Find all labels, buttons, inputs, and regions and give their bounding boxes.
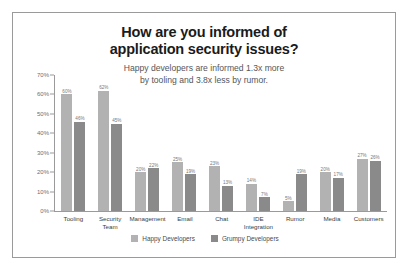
bar[interactable]: 20%: [135, 172, 146, 211]
y-axis-tick-mark: [50, 172, 54, 173]
bar-value-label: 5%: [285, 196, 292, 201]
bar[interactable]: 19%: [296, 174, 307, 211]
y-axis-tick-label: 50%: [37, 111, 49, 117]
bar-group: 62%45%: [92, 75, 129, 211]
chart-title-line-2: application security issues?: [79, 41, 329, 58]
bar-group: 14%7%: [239, 75, 276, 211]
x-axis-category-label: Management: [128, 215, 166, 231]
y-axis-tick-mark: [50, 152, 54, 153]
bar-group: 27%26%: [350, 75, 387, 211]
legend-label: Happy Developers: [142, 235, 195, 242]
bar-value-label: 25%: [173, 157, 182, 162]
bar-value-label: 62%: [99, 85, 108, 90]
x-axis-labels: ToolingSecurityTeamManagementEmailChatID…: [55, 215, 387, 231]
bar[interactable]: 14%: [246, 184, 257, 211]
bar[interactable]: 26%: [370, 161, 381, 212]
bar-value-label: 46%: [75, 116, 84, 121]
bar-group: 60%46%: [55, 75, 92, 211]
chart-subtitle-line-1: Happy developers are informed 1.3x more: [79, 63, 329, 74]
y-axis-tick-mark: [50, 191, 54, 192]
y-axis-tick-label: 0%: [40, 208, 49, 214]
legend-item[interactable]: Grumpy Developers: [211, 235, 279, 242]
y-axis-tick-mark: [50, 75, 54, 76]
bar[interactable]: 46%: [74, 122, 85, 211]
bar-group: 20%22%: [129, 75, 166, 211]
chart-card: How are you informed of application secu…: [12, 12, 396, 258]
bar-group: 23%13%: [203, 75, 240, 211]
bar-group: 20%17%: [313, 75, 350, 211]
bar[interactable]: 23%: [209, 166, 220, 211]
bar-value-label: 17%: [334, 172, 343, 177]
y-axis-tick-mark: [50, 133, 54, 134]
bar[interactable]: 62%: [98, 91, 109, 211]
bar-value-label: 27%: [357, 153, 366, 158]
bar-value-label: 20%: [321, 167, 330, 172]
bar-value-label: 7%: [261, 192, 268, 197]
x-axis-category-label: Customers: [350, 215, 387, 231]
bar-value-label: 19%: [297, 169, 306, 174]
bar[interactable]: 22%: [148, 168, 159, 211]
bar[interactable]: 13%: [222, 186, 233, 211]
bar-value-label: 14%: [247, 178, 256, 183]
bars-container: 60%46%62%45%20%22%25%19%23%13%14%7%5%19%…: [55, 75, 387, 211]
legend-swatch-icon: [211, 235, 218, 242]
bar[interactable]: 17%: [333, 178, 344, 211]
y-axis-tick-label: 60%: [37, 91, 49, 97]
x-axis-line: [54, 211, 387, 212]
page-title: How are you informed of application secu…: [79, 24, 329, 58]
bar-value-label: 13%: [223, 180, 232, 185]
bar[interactable]: 60%: [61, 94, 72, 211]
bar-value-label: 45%: [112, 118, 121, 123]
chart-title-line-1: How are you informed of: [79, 24, 329, 41]
x-axis-category-label: Email: [167, 215, 204, 231]
y-axis-tick-label: 40%: [37, 130, 49, 136]
bar[interactable]: 20%: [320, 172, 331, 211]
bar-group: 25%19%: [166, 75, 203, 211]
bar[interactable]: 27%: [357, 159, 368, 211]
x-axis-category-label: Tooling: [55, 215, 92, 231]
x-axis-category-label: SecurityTeam: [92, 215, 129, 231]
x-axis-category-label: IDEIntegration: [240, 215, 277, 231]
legend-item[interactable]: Happy Developers: [131, 235, 195, 242]
plot-area: 70%60%50%40%30%20%10%0% 60%46%62%45%20%2…: [13, 75, 397, 233]
legend-label: Grumpy Developers: [222, 235, 279, 242]
bar-value-label: 20%: [136, 167, 145, 172]
x-axis-category-label: Rumor: [277, 215, 314, 231]
bar-value-label: 60%: [62, 89, 71, 94]
y-axis-tick-label: 10%: [37, 189, 49, 195]
x-axis-category-label: Media: [314, 215, 351, 231]
chart-legend: Happy DevelopersGrumpy Developers: [13, 235, 397, 242]
bar-value-label: 19%: [186, 169, 195, 174]
bar[interactable]: 25%: [172, 162, 183, 211]
bar[interactable]: 7%: [259, 197, 270, 211]
y-axis-tick-label: 30%: [37, 150, 49, 156]
legend-swatch-icon: [131, 235, 138, 242]
y-axis-tick-label: 20%: [37, 169, 49, 175]
y-axis-tick-label: 70%: [37, 72, 49, 78]
x-axis-category-label: Chat: [203, 215, 240, 231]
bar[interactable]: 5%: [283, 201, 294, 211]
y-axis-tick-mark: [50, 113, 54, 114]
bar[interactable]: 45%: [111, 124, 122, 211]
y-axis-tick-mark: [50, 211, 54, 212]
bar-value-label: 22%: [149, 163, 158, 168]
bar[interactable]: 19%: [185, 174, 196, 211]
bar-group: 5%19%: [276, 75, 313, 211]
y-axis-tick-mark: [50, 94, 54, 95]
y-axis: 70%60%50%40%30%20%10%0%: [23, 75, 49, 211]
bar-value-label: 26%: [370, 155, 379, 160]
bar-value-label: 23%: [210, 161, 219, 166]
